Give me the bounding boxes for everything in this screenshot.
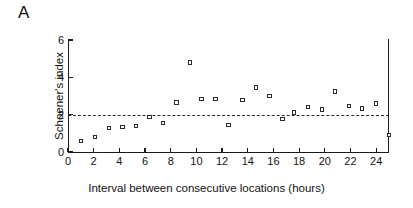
x-tick-label: 6 [142,156,148,167]
scatter-point [147,115,151,119]
x-tick-label: 12 [216,156,228,167]
scatter-point [267,94,271,98]
scatter-point [347,104,351,108]
x-tick-label: 4 [116,156,122,167]
x-tick-label: 14 [242,156,254,167]
scatter-point [174,100,178,104]
scatter-point [199,97,203,101]
scatter-point [226,123,230,127]
y-tick-labels: 0246 [0,0,64,208]
scatter-point [134,124,138,128]
scatter-point [120,125,124,129]
scatter-point [188,60,192,64]
x-axis-spine [68,152,389,153]
x-tick-label: 8 [168,156,174,167]
scatter-point [213,97,217,101]
y-tick-label: 0 [58,147,64,158]
scatter-point [107,126,111,130]
scatter-point [79,139,83,143]
x-tick-label: 10 [190,156,202,167]
figure-panel-a: A Schoener's index 0246 0246810121416182… [0,0,413,208]
x-tick-label: 0 [65,156,71,167]
scatter-point [320,107,324,111]
x-tick-label: 20 [319,156,331,167]
scatter-point [254,85,258,89]
scatter-point [306,105,310,109]
x-tick-label: 16 [267,156,279,167]
scatter-point [333,89,337,93]
scatter-point [280,117,284,121]
plot-area [68,40,389,152]
y-tick-label: 2 [58,109,64,120]
scatter-point [292,110,296,114]
x-tick-label: 2 [91,156,97,167]
scatter-point [374,101,378,105]
scatter-point [240,98,244,102]
scatter-point [387,133,391,137]
x-tick-label: 24 [370,156,382,167]
scatter-point [161,121,165,125]
x-tick-label: 18 [293,156,305,167]
scatter-point [93,135,97,139]
reference-line [68,115,389,116]
scatter-point [360,106,364,110]
x-axis-label: Interval between consecutive locations (… [0,182,413,194]
y-tick-label: 6 [58,35,64,46]
y-tick-label: 4 [58,72,64,83]
x-tick-label: 22 [344,156,356,167]
